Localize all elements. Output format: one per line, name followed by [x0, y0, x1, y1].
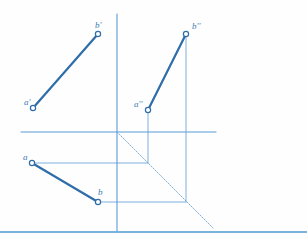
- vertex-label-a-double: a'': [134, 100, 142, 109]
- vertex-marker-b-plain[interactable]: [95, 199, 100, 204]
- segment-frontal-view: [33, 34, 98, 108]
- vertex-label-b-plain: b: [98, 188, 103, 197]
- vertex-marker-a-prime[interactable]: [30, 105, 35, 110]
- vertex-marker-a-double[interactable]: [145, 107, 150, 112]
- miter-line-45deg: [117, 132, 213, 228]
- segments-group: [32, 34, 186, 202]
- vertex-label-b-double: b'': [192, 22, 200, 31]
- vertex-label-b-prime: b': [95, 21, 101, 30]
- vertex-marker-a-plain[interactable]: [29, 160, 34, 165]
- vertex-label-a-plain: a: [23, 153, 28, 162]
- vertex-markers-group: [29, 31, 188, 204]
- vertex-marker-b-prime[interactable]: [95, 31, 100, 36]
- vertex-marker-b-double[interactable]: [183, 31, 188, 36]
- axes-group: [21, 14, 216, 231]
- projection-diagram: [0, 0, 307, 239]
- drawing-canvas: a' b' a'' b'' a b: [0, 0, 307, 239]
- segment-horizontal-view: [32, 163, 98, 202]
- segment-profile-view: [148, 34, 186, 110]
- vertex-label-a-prime: a': [24, 98, 30, 107]
